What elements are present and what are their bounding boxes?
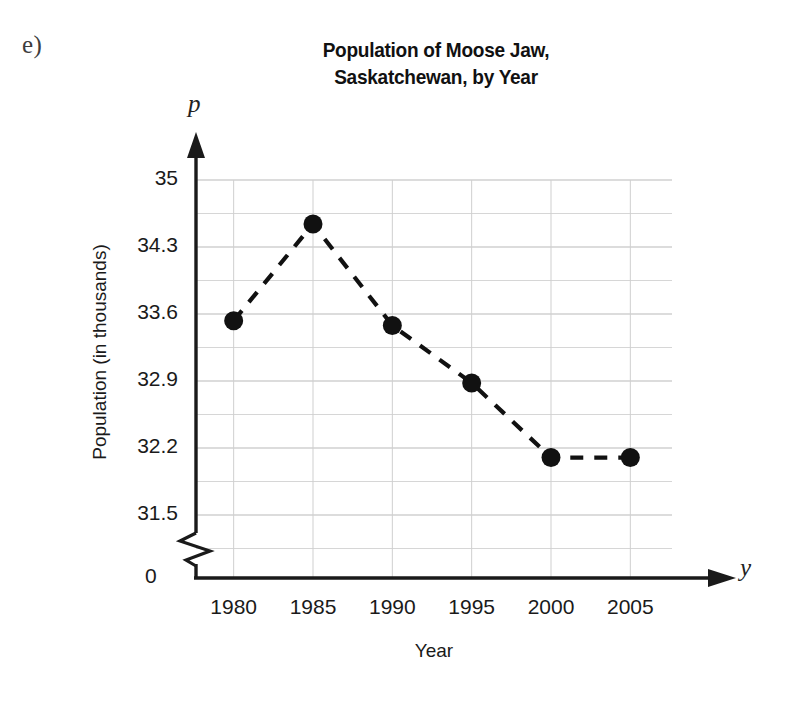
data-point-marker: [621, 448, 640, 467]
data-point-marker: [304, 215, 323, 234]
chart-plot: [0, 0, 793, 702]
x-axis-arrowhead: [708, 569, 736, 587]
y-axis-break-symbol: [180, 533, 210, 566]
data-point-marker: [383, 316, 402, 335]
data-line-path: [234, 224, 631, 458]
data-line-series: [234, 224, 631, 458]
data-point-marker: [224, 311, 243, 330]
data-point-marker: [542, 448, 561, 467]
data-point-markers: [224, 215, 640, 468]
data-point-marker: [462, 373, 481, 392]
y-axis-arrowhead: [187, 132, 205, 158]
gridlines-vertical: [234, 180, 631, 578]
axis-lines: [180, 132, 736, 587]
